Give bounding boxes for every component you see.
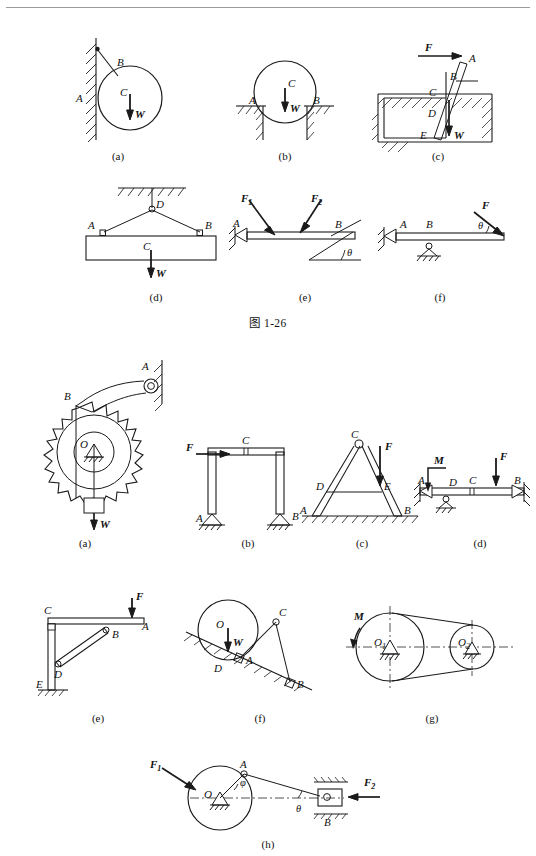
label-angle-theta: θ	[478, 220, 483, 231]
label-point-o: O	[80, 438, 88, 450]
label-point-c: C	[351, 428, 359, 440]
label-point-c: C	[143, 240, 151, 252]
figure-1d-suspended-beam: D A B C W	[66, 182, 246, 287]
label-point-b: B	[313, 94, 320, 106]
anchor-dot	[95, 47, 99, 51]
label-point-b: B	[324, 816, 331, 828]
figure-2g-belt-drive: M O1 O2	[340, 592, 520, 702]
label-point-a: A	[195, 512, 203, 524]
label-point-c: C	[469, 474, 477, 486]
label-point-b: B	[64, 390, 71, 402]
page-top-rule	[6, 7, 530, 8]
label-force-w: W	[290, 102, 301, 114]
label-force-w: W	[135, 108, 146, 120]
figure-label-2e: (e)	[78, 712, 118, 724]
label-force-f2: F2	[310, 192, 322, 207]
label-force-w: W	[100, 518, 111, 530]
label-point-e: E	[383, 480, 391, 492]
label-angle-theta: θ	[347, 247, 352, 258]
label-force-f: F	[499, 450, 508, 462]
figure-2b-portal-frame: F C A B	[182, 428, 312, 533]
label-point-e: E	[35, 678, 43, 690]
label-point-a: A	[245, 654, 253, 666]
figure-label-1b: (b)	[265, 150, 305, 162]
figure-group-caption-1-26: 图 1-26	[208, 314, 328, 330]
label-angle-phi: φ	[240, 777, 246, 788]
label-point-e: E	[419, 129, 427, 141]
label-point-o2: O2	[458, 636, 470, 651]
figure-label-2d: (d)	[460, 537, 500, 549]
label-force-f2: F2	[363, 776, 375, 791]
textbook-page: A B C W (a)	[0, 0, 536, 856]
label-point-a: A	[239, 758, 247, 770]
figure-label-1e: (e)	[285, 291, 325, 303]
figure-2h-crank-slider: F1 F2 A O φ θ B	[148, 756, 388, 838]
label-point-a: A	[248, 94, 256, 106]
label-point-o: O	[204, 788, 212, 800]
figure-label-1d: (d)	[136, 291, 176, 303]
figure-label-2b: (b)	[228, 537, 268, 549]
figure-1e-beam-two-loads: F1 F2 A B θ	[225, 192, 385, 282]
label-force-f1: F1	[240, 192, 252, 207]
label-point-a: A	[141, 360, 149, 372]
label-point-b: B	[205, 219, 212, 231]
label-force-f: F	[481, 199, 490, 211]
label-point-d: D	[155, 198, 164, 210]
label-moment-m: M	[353, 610, 365, 622]
label-point-d: D	[427, 107, 436, 119]
label-point-d: D	[53, 668, 62, 680]
label-point-a: A	[299, 504, 307, 516]
label-point-b: B	[450, 70, 457, 82]
label-point-a: A	[87, 219, 95, 231]
label-point-b: B	[117, 56, 124, 68]
label-force-w: W	[156, 267, 167, 279]
label-force-w: W	[454, 129, 465, 141]
label-point-c: C	[429, 86, 437, 98]
label-point-d: D	[448, 476, 457, 488]
label-point-b: B	[426, 218, 433, 230]
label-point-o: O	[216, 618, 224, 630]
label-angle-theta: θ	[296, 803, 301, 814]
figure-label-2f: (f)	[240, 712, 280, 724]
label-point-c: C	[242, 434, 250, 446]
figure-label-1a: (a)	[98, 150, 138, 162]
label-point-a: A	[232, 217, 240, 229]
figure-1b-cylinder-in-groove: A B C W	[222, 44, 348, 144]
label-point-c: C	[120, 86, 128, 98]
figure-2c-step-ladder: C F D E A B	[296, 424, 426, 534]
label-force-f1: F1	[149, 758, 161, 773]
label-point-b: B	[297, 678, 304, 690]
figure-1c-bar-in-slot: F A B C D E W	[356, 38, 516, 148]
label-point-a: A	[75, 92, 83, 104]
figure-label-1f: (f)	[420, 291, 460, 303]
label-point-a: A	[417, 474, 425, 486]
label-point-b: B	[112, 628, 119, 640]
label-point-a: A	[468, 52, 476, 64]
label-point-c: C	[288, 77, 296, 89]
figure-label-2a: (a)	[65, 537, 105, 549]
label-force-f: F	[135, 590, 144, 602]
label-force-f: F	[185, 441, 194, 453]
label-point-a: A	[399, 218, 407, 230]
figure-label-2h: (h)	[248, 838, 288, 850]
label-force-f: F	[384, 440, 393, 452]
figure-label-1c: (c)	[418, 150, 458, 162]
label-point-a: A	[141, 620, 149, 632]
figure-2e-wall-bracket: F C A B D E	[30, 588, 165, 698]
label-force-f: F	[424, 41, 433, 53]
figure-1a-cylinder-on-wall: A B C W	[68, 36, 198, 146]
label-point-b: B	[514, 474, 521, 486]
label-point-c: C	[279, 606, 287, 618]
figure-2f-cylinder-on-incline: O W A D C B	[180, 588, 330, 698]
figure-2a-ratchet-wheel: A B O W	[14, 356, 184, 531]
figure-1f-beam-pin-roller: A B F θ	[374, 196, 524, 281]
figure-label-2c: (c)	[342, 537, 382, 549]
label-point-d: D	[315, 480, 324, 492]
label-moment-m: M	[433, 454, 445, 466]
label-point-b: B	[335, 218, 342, 230]
label-point-c: C	[44, 604, 52, 616]
figure-label-2g: (g)	[412, 712, 452, 724]
label-force-w: W	[233, 636, 244, 648]
figure-2d-compound-beam: A M D C F B	[408, 436, 534, 531]
label-point-d: D	[213, 662, 222, 674]
